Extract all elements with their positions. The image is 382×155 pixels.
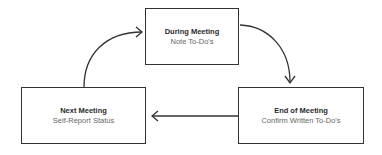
node-title: Next Meeting <box>60 106 107 116</box>
node-subtitle: Note To-Do's <box>171 37 214 47</box>
node-subtitle: Confirm Written To-Do's <box>261 116 340 126</box>
node-during-meeting: During Meeting Note To-Do's <box>145 8 239 65</box>
node-subtitle: Self-Report Status <box>53 116 114 126</box>
arrow-next-to-during <box>84 27 142 87</box>
arrow-end-to-next <box>152 111 238 121</box>
node-end-of-meeting: End of Meeting Confirm Written To-Do's <box>238 87 364 144</box>
arrow-during-to-end <box>240 25 295 83</box>
node-title: End of Meeting <box>274 106 328 116</box>
node-title: During Meeting <box>165 27 220 37</box>
node-next-meeting: Next Meeting Self-Report Status <box>21 87 146 144</box>
